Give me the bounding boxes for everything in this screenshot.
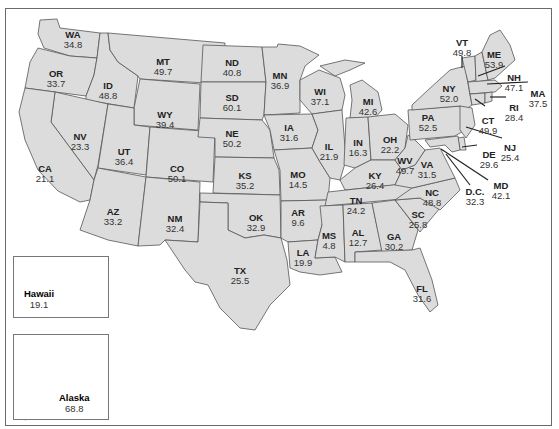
state-value: 49.9: [479, 126, 498, 136]
state-value: 37.5: [529, 99, 548, 109]
alaska-value: 68.8: [59, 403, 90, 414]
state-label-nh: NH47.1: [505, 73, 524, 93]
state-value: 34.8: [64, 40, 83, 50]
state-value: 48.8: [423, 198, 442, 208]
state-value: 24.2: [347, 206, 366, 216]
hawaii-inset: Hawaii 19.1: [13, 256, 109, 318]
state-value: 31.5: [418, 170, 437, 180]
state-label-wa: WA34.8: [64, 30, 83, 50]
state-label-ct: CT49.9: [479, 116, 498, 136]
state-value: 48.8: [99, 91, 118, 101]
state-label-ky: KY26.4: [366, 171, 385, 191]
state-label-mn: MN36.9: [271, 71, 290, 91]
state-value: 23.3: [71, 142, 90, 152]
state-value: 26.4: [366, 181, 385, 191]
state-label-ri: RI28.4: [505, 103, 524, 123]
state-label-nd: ND40.8: [223, 58, 242, 78]
state-label-nv: NV23.3: [71, 132, 90, 152]
state-value: 14.5: [289, 180, 308, 190]
state-label-vt: VT49.8: [453, 38, 472, 58]
state-value: 35.2: [236, 181, 255, 191]
state-value: 50.1: [168, 174, 187, 184]
state-label-or: OR33.7: [47, 69, 66, 89]
state-label-ok: OK32.9: [247, 213, 266, 233]
state-value: 33.7: [47, 79, 66, 89]
state-label-tn: TN24.2: [347, 196, 366, 216]
state-label-pa: PA52.5: [419, 113, 438, 133]
hawaii-label: Hawaii: [24, 288, 54, 299]
state-label-wv: WV49.7: [396, 156, 415, 176]
state-value: 22.2: [381, 145, 400, 155]
state-label-ga: GA30.2: [385, 232, 404, 252]
state-value: 49.8: [453, 48, 472, 58]
state-value: 49.7: [396, 166, 415, 176]
state-value: 16.3: [349, 148, 368, 158]
state-label-sd: SD60.1: [223, 93, 242, 113]
state-label-al: AL12.7: [349, 228, 368, 248]
state-label-ut: UT36.4: [115, 147, 134, 167]
state-value: 25.8: [409, 220, 428, 230]
state-value: 31.6: [280, 133, 299, 143]
state-label-il: IL21.9: [320, 142, 339, 162]
state-label-in: IN16.3: [349, 138, 368, 158]
state-label-fl: FL31.6: [413, 284, 432, 304]
state-value: 19.9: [294, 258, 313, 268]
state-value: 30.2: [385, 242, 404, 252]
state-value: 40.8: [223, 68, 242, 78]
state-label-ms: MS4.8: [322, 231, 336, 251]
state-value: 52.5: [419, 123, 438, 133]
state-label-ny: NY52.0: [440, 84, 459, 104]
state-value: 36.9: [271, 81, 290, 91]
state-value: 39.4: [156, 120, 175, 130]
state-value: 28.4: [505, 113, 524, 123]
alaska-inset: Alaska 68.8: [13, 334, 109, 420]
state-nm[interactable]: [138, 177, 200, 246]
state-value: 4.8: [322, 241, 336, 251]
state-label-sc: SC25.8: [409, 210, 428, 230]
state-value: 33.2: [104, 217, 123, 227]
state-label-dc.: D.C.32.3: [466, 187, 485, 207]
state-ma[interactable]: [468, 80, 502, 94]
alaska-label: Alaska: [59, 392, 90, 403]
state-value: 25.5: [231, 276, 250, 286]
state-value: 47.1: [505, 83, 524, 93]
state-value: 25.4: [501, 153, 520, 163]
hawaii-value: 19.1: [24, 299, 54, 310]
state-label-wy: WY39.4: [156, 110, 175, 130]
state-label-la: LA19.9: [294, 248, 313, 268]
state-value: 60.1: [223, 103, 242, 113]
state-label-va: VA31.5: [418, 160, 437, 180]
state-label-co: CO50.1: [168, 164, 187, 184]
state-value: 42.1: [492, 191, 511, 201]
state-value: 12.7: [349, 238, 368, 248]
state-label-ks: KS35.2: [236, 171, 255, 191]
state-label-mo: MO14.5: [289, 170, 308, 190]
state-label-mi: MI42.6: [359, 97, 378, 117]
state-value: 52.0: [440, 94, 459, 104]
state-label-oh: OH22.2: [381, 135, 400, 155]
state-label-ca: CA21.1: [36, 164, 55, 184]
state-label-id: ID48.8: [99, 81, 118, 101]
state-value: 36.4: [115, 157, 134, 167]
state-value: 32.3: [466, 197, 485, 207]
state-value: 32.9: [247, 223, 266, 233]
state-label-nm: NM32.4: [166, 214, 185, 234]
state-label-ne: NE50.2: [223, 129, 242, 149]
state-label-nc: NC48.8: [423, 188, 442, 208]
state-label-wi: WI37.1: [311, 87, 330, 107]
state-label-az: AZ33.2: [104, 207, 123, 227]
state-label-me: ME53.9: [485, 50, 504, 70]
state-ct[interactable]: [470, 93, 485, 105]
state-value: 53.9: [485, 60, 504, 70]
state-value: 29.6: [480, 160, 499, 170]
state-value: 21.1: [36, 174, 55, 184]
state-value: 31.6: [413, 294, 432, 304]
state-nj[interactable]: [460, 106, 475, 138]
state-label-ar: AR9.6: [291, 208, 305, 228]
state-value: 50.2: [223, 139, 242, 149]
state-value: 37.1: [311, 97, 330, 107]
state-label-ma: MA37.5: [529, 89, 548, 109]
state-value: 42.6: [359, 107, 378, 117]
state-label-mt: MT49.7: [154, 57, 173, 77]
state-label-nj: NJ25.4: [501, 143, 520, 163]
